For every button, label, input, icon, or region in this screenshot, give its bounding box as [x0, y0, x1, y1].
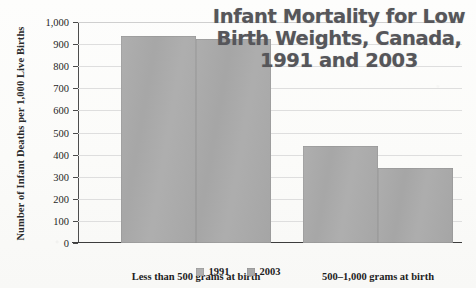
y-axis-tick-label: 900: [53, 39, 69, 50]
legend-swatch-icon: [196, 268, 204, 276]
y-axis-tick-label: 1,000: [45, 17, 69, 28]
y-axis-tick-label: 100: [53, 215, 69, 226]
chart-legend: 19912003: [0, 266, 476, 277]
y-axis-tick-label: 500: [53, 127, 69, 138]
y-axis-tick: [73, 155, 78, 156]
y-axis-tick-label: 700: [53, 83, 69, 94]
y-axis-tick: [73, 88, 78, 89]
y-axis-tick: [73, 199, 78, 200]
y-axis-tick: [73, 221, 78, 222]
legend-label: 1991: [209, 266, 230, 277]
y-axis-tick: [73, 44, 78, 45]
y-axis-tick-label: 200: [53, 193, 69, 204]
y-axis-tick-label: 600: [53, 105, 69, 116]
legend-swatch-icon: [247, 268, 255, 276]
y-axis-tick: [73, 110, 78, 111]
y-axis-tick: [73, 22, 78, 23]
legend-item-2003: 2003: [247, 266, 281, 277]
y-axis-tick-label: 0: [64, 238, 69, 249]
y-axis-tick-label: 800: [53, 61, 69, 72]
chart-page: Infant Mortality for Low Birth Weights, …: [0, 0, 476, 288]
y-axis-tick: [73, 177, 78, 178]
legend-item-1991: 1991: [196, 266, 230, 277]
bar-2003-1: [378, 168, 453, 243]
y-axis-tick-label: 400: [53, 149, 69, 160]
y-axis-tick: [73, 243, 78, 244]
chart-title: Infant Mortality for Low Birth Weights, …: [210, 6, 468, 72]
bar-1991-1: [303, 146, 378, 243]
bar-1991-0: [121, 36, 196, 243]
y-axis-tick: [73, 66, 78, 67]
legend-label: 2003: [260, 266, 281, 277]
y-axis-tick-label: 300: [53, 171, 69, 182]
y-axis-title: Number of Infant Deaths per 1,000 Live B…: [15, 16, 26, 252]
y-axis-tick: [73, 133, 78, 134]
